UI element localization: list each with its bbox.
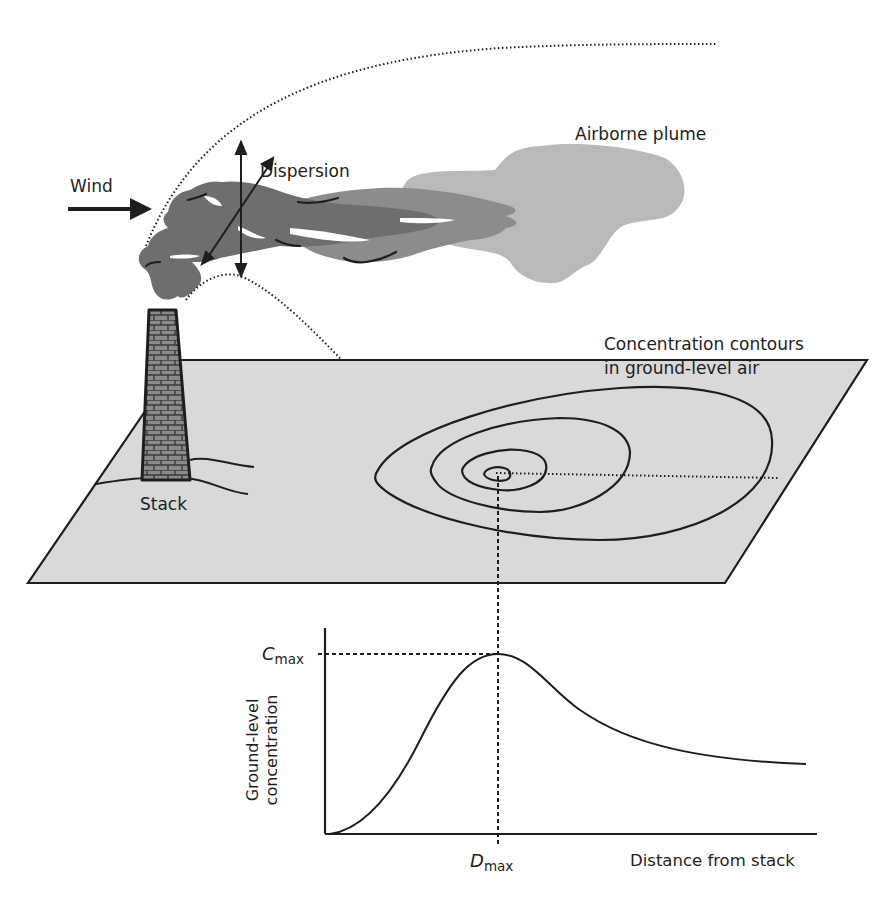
wind-arrow-icon <box>68 198 152 220</box>
y-axis-label-line1: Ground-level <box>243 670 262 830</box>
y-axis-label-line2: concentration <box>262 670 281 830</box>
contours-label-line1: Concentration contours <box>604 336 804 353</box>
stack-label: Stack <box>140 496 187 513</box>
x-axis-label: Distance from stack <box>630 853 795 870</box>
dmax-label: Dmax <box>470 852 513 870</box>
cmax-subscript: max <box>275 651 304 667</box>
stack-body <box>142 310 190 480</box>
wind-label: Wind <box>70 178 113 195</box>
contours-label-line2: in ground-level air <box>604 360 759 377</box>
chart-axes <box>325 628 817 834</box>
concentration-curve <box>330 654 806 834</box>
airborne-plume-label: Airborne plume <box>575 126 706 143</box>
dmax-subscript: max <box>484 858 513 874</box>
air-dispersion-diagram <box>0 0 896 901</box>
smokestack <box>142 310 190 480</box>
cmax-symbol: C <box>262 643 275 664</box>
y-axis-label: Ground-level concentration <box>243 670 281 830</box>
dmax-symbol: D <box>470 850 484 871</box>
dispersion-label: Dispersion <box>260 163 350 180</box>
cmax-label: Cmax <box>262 645 304 663</box>
